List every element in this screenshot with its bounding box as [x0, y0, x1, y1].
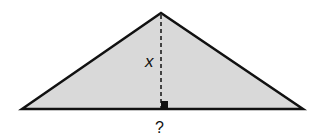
height-label: x — [144, 52, 154, 71]
right-angle-marker — [161, 101, 168, 109]
triangle — [22, 13, 303, 109]
base-label: ? — [155, 119, 164, 136]
triangle-diagram: x ? — [0, 0, 316, 139]
